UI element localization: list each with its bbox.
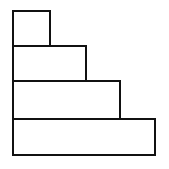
- block-4: [12, 118, 156, 156]
- block-1: [12, 10, 51, 47]
- block-2: [12, 45, 87, 82]
- staircase-diagram: [0, 0, 169, 169]
- block-3: [12, 80, 121, 120]
